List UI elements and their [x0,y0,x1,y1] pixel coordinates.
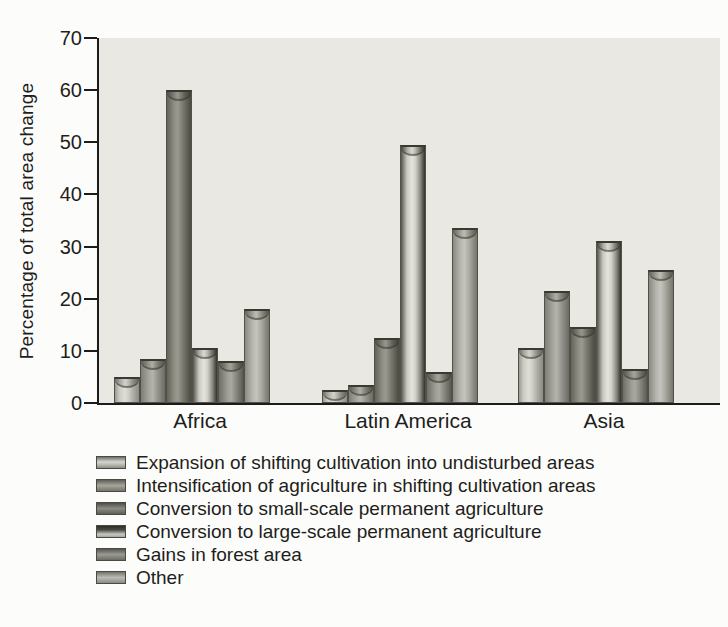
plot-area [97,38,720,405]
y-tick-20 [84,298,97,300]
bar-cap [649,272,673,281]
legend-row-conversion-to-small: Conversion to small-scale permanent agri… [96,497,696,520]
legend-swatch [96,571,126,584]
bar-cap [401,147,425,156]
bar-group-asia [518,241,674,403]
bar-cap [519,350,543,359]
y-tick-label-20: 20 [20,288,82,310]
y-tick-10 [84,350,97,352]
bar-cap [453,230,477,239]
y-tick-label-60: 60 [20,79,82,101]
legend-swatch [96,525,126,538]
y-tick-label-70: 70 [20,27,82,49]
bar-cap [545,293,569,302]
bar-cap [115,379,139,388]
x-label-latin-america: Latin America [330,409,486,433]
bar-cap [245,311,269,320]
deforestation-causes-figure: Percentage of total area change 01020304… [0,0,728,627]
bar-latin-america-other [452,228,478,403]
legend-label: Other [136,566,184,589]
bar-latin-america-conversion-to-large [400,145,426,403]
y-tick-label-40: 40 [20,183,82,205]
bar-asia-conversion-to-large [596,241,622,403]
y-tick-label-0: 0 [20,392,82,414]
legend-swatch [96,502,126,515]
bar-asia-gains-in-forest [622,369,648,403]
legend-row-gains-in-forest: Gains in forest area [96,543,696,566]
legend-swatch [96,456,126,469]
bar-cap [349,387,373,396]
bar-cap [427,374,451,383]
legend-label: Expansion of shifting cultivation into u… [136,451,594,474]
bar-asia-conversion-to-small [570,327,596,403]
y-tick-40 [84,193,97,195]
bar-cap [323,392,347,401]
bar-africa-gains-in-forest [218,361,244,403]
bar-cap [141,361,165,370]
y-axis-title: Percentage of total area change [16,83,38,360]
bar-group-africa [114,90,270,403]
legend-row-conversion-to-large: Conversion to large-scale permanent agri… [96,520,696,543]
bar-latin-america-gains-in-forest [426,372,452,403]
y-tick-50 [84,141,97,143]
bar-latin-america-intensification-of-agriculture [348,385,374,403]
y-tick-60 [84,89,97,91]
y-tick-label-50: 50 [20,131,82,153]
y-tick-0 [84,402,97,404]
bar-group-latin-america [322,145,478,403]
bar-asia-other [648,270,674,403]
y-tick-label-10: 10 [20,340,82,362]
bar-cap [167,92,191,101]
legend-swatch [96,548,126,561]
bar-asia-expansion-of-shifting [518,348,544,403]
bar-cap [193,350,217,359]
legend-label: Conversion to small-scale permanent agri… [136,497,544,520]
bar-africa-expansion-of-shifting [114,377,140,403]
legend-label: Intensification of agriculture in shifti… [136,474,595,497]
y-tick-label-30: 30 [20,236,82,258]
legend-row-expansion-of-shifting: Expansion of shifting cultivation into u… [96,451,696,474]
x-label-asia: Asia [526,409,682,433]
legend-label: Gains in forest area [136,543,302,566]
bar-cap [623,371,647,380]
bar-cap [571,329,595,338]
bar-africa-conversion-to-large [192,348,218,403]
bar-africa-intensification-of-agriculture [140,359,166,403]
legend-label: Conversion to large-scale permanent agri… [136,520,542,543]
bar-cap [219,363,243,372]
bar-cap [375,340,399,349]
legend-row-other: Other [96,566,696,589]
legend-swatch [96,479,126,492]
bar-cap [597,243,621,252]
y-tick-30 [84,246,97,248]
legend-row-intensification-of-agriculture: Intensification of agriculture in shifti… [96,474,696,497]
bar-latin-america-expansion-of-shifting [322,390,348,403]
legend: Expansion of shifting cultivation into u… [96,451,696,589]
bar-latin-america-conversion-to-small [374,338,400,403]
bar-africa-conversion-to-small [166,90,192,403]
y-tick-70 [84,37,97,39]
bar-asia-intensification-of-agriculture [544,291,570,403]
bar-africa-other [244,309,270,403]
x-label-africa: Africa [122,409,278,433]
